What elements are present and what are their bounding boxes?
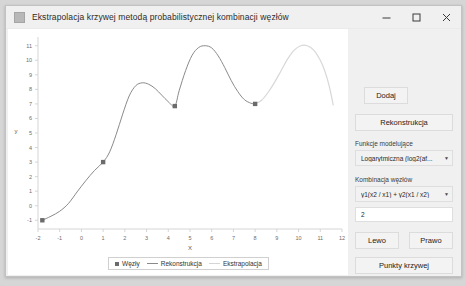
model-functions-label: Funkcje modelujące [355, 140, 413, 147]
control-panel: Dodaj Rekonstrukcja Funkcje modelujące L… [349, 29, 459, 275]
legend-label-nodes: Węzły [122, 260, 140, 267]
x-tick-label: 9 [275, 235, 278, 241]
curve-points-button[interactable]: Punkty krzywej [355, 257, 453, 274]
y-tick-label: 2 [29, 174, 32, 180]
legend-item-extrapolation: Ekstrapolacja [209, 260, 262, 267]
x-tick-label: 1 [102, 235, 105, 241]
window-controls [371, 6, 461, 28]
y-tick-label: 0 [29, 203, 32, 209]
node-marker [173, 104, 177, 108]
node-marker [253, 102, 257, 106]
x-tick-label: 0 [80, 235, 83, 241]
chart-panel: -2-10123456789101112 -101234567891011 X … [8, 29, 348, 275]
parameter-input[interactable]: 2 [355, 207, 453, 222]
y-tick-label: 3 [29, 159, 32, 165]
desktop-background: Ekstrapolacja krzywej metodą probabilist… [0, 0, 465, 286]
model-functions-select[interactable]: Logarytmiczna (log2(af... ▼ [355, 150, 453, 166]
x-tick-label: 7 [232, 235, 235, 241]
add-button[interactable]: Dodaj [364, 87, 408, 104]
legend-label-reconstruction: Rekonstrukcja [161, 260, 202, 267]
legend-item-reconstruction: Rekonstrukcja [147, 260, 202, 267]
close-icon[interactable] [431, 6, 461, 28]
x-tick-label: 3 [145, 235, 148, 241]
y-tick-label: 11 [26, 43, 32, 49]
x-tick-label: -1 [57, 235, 62, 241]
left-button[interactable]: Lewo [355, 232, 399, 249]
reconstruct-button[interactable]: Rekonstrukcja [355, 114, 453, 131]
legend-extrapolation-line-icon [209, 263, 220, 264]
node-marker [101, 160, 105, 164]
legend-node-marker-icon [115, 262, 119, 266]
node-marker [40, 218, 44, 222]
y-tick-label: 7 [29, 101, 32, 107]
chevron-down-icon: ▼ [442, 191, 449, 197]
node-combination-value: y1(x2 / x1) + y2(x1 / x2) [361, 191, 442, 198]
x-tick-label: -2 [36, 235, 41, 241]
x-axis-label: X [188, 245, 192, 251]
y-tick-label: 5 [29, 130, 32, 136]
window-body: -2-10123456789101112 -101234567891011 X … [6, 29, 461, 276]
x-tick-label: 8 [254, 235, 257, 241]
legend-label-extrapolation: Ekstrapolacja [223, 260, 262, 267]
right-button[interactable]: Prawo [409, 232, 453, 249]
y-tick-label: 8 [29, 86, 32, 92]
model-functions-value: Logarytmiczna (log2(af... [361, 155, 442, 162]
minimize-icon[interactable] [371, 6, 401, 28]
x-tick-label: 11 [317, 235, 323, 241]
legend-reconstruction-line-icon [147, 263, 158, 264]
y-tick-label: 1 [29, 188, 32, 194]
chart-legend: Węzły Rekonstrukcja Ekstrapolacja [108, 257, 269, 270]
title-bar: Ekstrapolacja krzywej metodą probabilist… [6, 6, 461, 29]
app-window-icon [14, 12, 25, 23]
y-tick-label: -1 [27, 217, 32, 223]
window-title: Ekstrapolacja krzywej metodą probabilist… [32, 12, 289, 22]
maximize-icon[interactable] [401, 6, 431, 28]
x-tick-label: 5 [188, 235, 191, 241]
y-axis-label: y [15, 128, 18, 134]
node-combination-label: Kombinacja węzłów [355, 176, 412, 183]
y-tick-label: 4 [29, 145, 32, 151]
node-combination-select[interactable]: y1(x2 / x1) + y2(x1 / x2) ▼ [355, 186, 453, 202]
y-tick-label: 9 [29, 72, 32, 78]
app-window: Ekstrapolacja krzywej metodą probabilist… [5, 5, 462, 277]
curve-chart: -2-10123456789101112 -101234567891011 X … [8, 29, 348, 275]
chevron-down-icon: ▼ [442, 155, 449, 161]
x-tick-label: 4 [167, 235, 170, 241]
x-tick-label: 10 [296, 235, 302, 241]
y-tick-label: 10 [26, 57, 32, 63]
x-tick-label: 2 [123, 235, 126, 241]
x-tick-label: 6 [210, 235, 213, 241]
y-tick-label: 6 [29, 115, 32, 121]
legend-item-nodes: Węzły [115, 260, 140, 267]
x-tick-label: 12 [339, 235, 345, 241]
